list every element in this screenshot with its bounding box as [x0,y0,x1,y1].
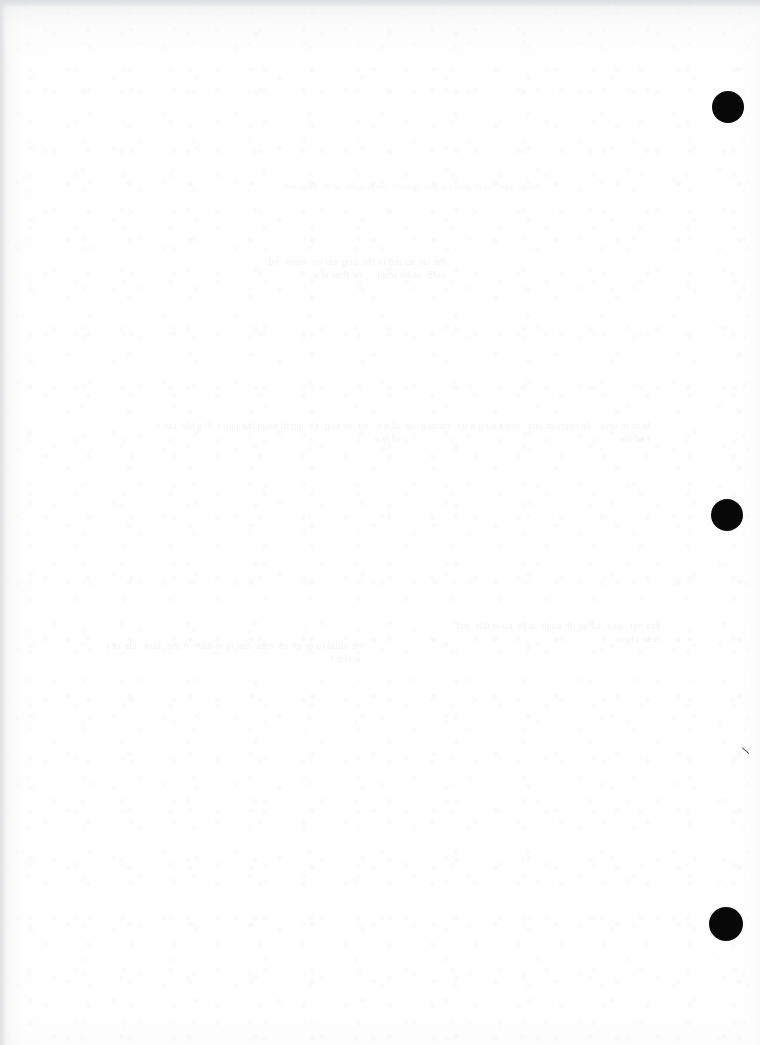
punch-hole-top [712,91,744,123]
punch-hole-bottom [709,907,743,941]
punch-hole-middle [711,499,743,531]
paper-grain-texture [0,0,760,1045]
scanned-page: blank age no pr nted co tent pres nt on … [0,0,760,1045]
